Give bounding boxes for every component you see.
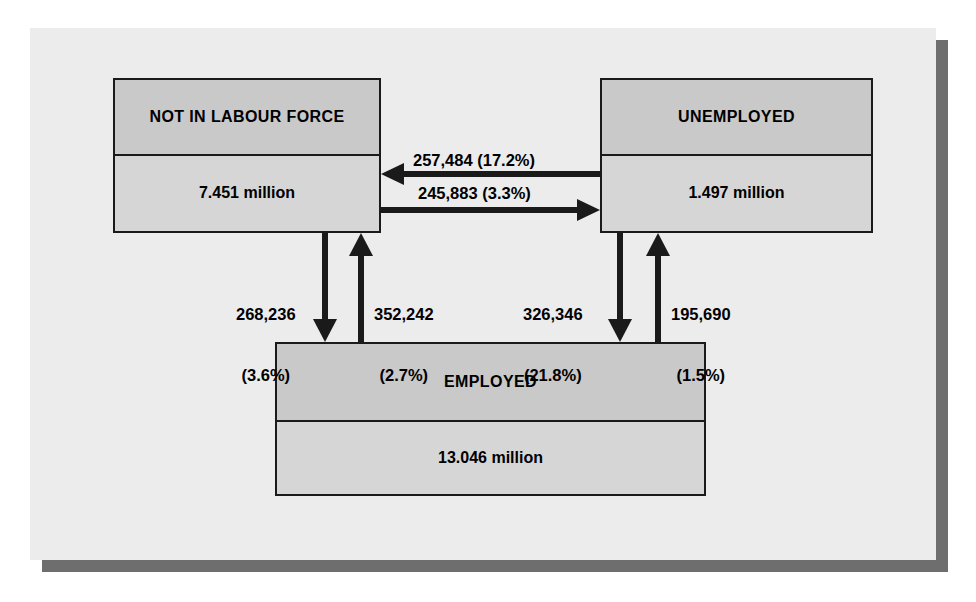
flow-label-unemployed-to-employed: 326,346 (21.8%)	[523, 264, 583, 425]
diagram-canvas: NOT IN LABOUR FORCE 7.451 million UNEMPL…	[0, 0, 976, 602]
flow-label-not-in-labour-force-to-unemployed: 245,883 (3.3%)	[418, 183, 531, 203]
flow-label-not-in-labour-force-to-employed: 268,236 (3.6%)	[236, 264, 296, 425]
flow-label-percent: (1.5%)	[671, 365, 731, 385]
flow-label-percent: (3.6%)	[236, 365, 296, 385]
flow-label-employed-to-not-in-labour-force: 352,242 (2.7%)	[374, 264, 434, 425]
flow-label-count: 352,242	[374, 304, 434, 324]
node-unemployed-value: 1.497 million	[602, 156, 871, 232]
flow-label-percent: (2.7%)	[374, 365, 434, 385]
node-unemployed: UNEMPLOYED 1.497 million	[600, 78, 873, 233]
node-employed-value: 13.046 million	[277, 422, 704, 494]
node-employed-title: EMPLOYED	[277, 344, 704, 422]
node-not-in-labour-force-value: 7.451 million	[115, 156, 379, 232]
flow-label-count: 195,690	[671, 304, 731, 324]
node-not-in-labour-force-title: NOT IN LABOUR FORCE	[115, 80, 379, 156]
flow-label-employed-to-unemployed: 195,690 (1.5%)	[671, 264, 731, 425]
node-employed: EMPLOYED 13.046 million	[275, 342, 706, 496]
flow-label-unemployed-to-not-in-labour-force: 257,484 (17.2%)	[413, 150, 535, 170]
node-unemployed-title: UNEMPLOYED	[602, 80, 871, 156]
flow-label-count: 326,346	[523, 304, 583, 324]
flow-label-count: 268,236	[236, 304, 296, 324]
node-not-in-labour-force: NOT IN LABOUR FORCE 7.451 million	[113, 78, 381, 233]
flow-label-percent: (21.8%)	[523, 365, 583, 385]
